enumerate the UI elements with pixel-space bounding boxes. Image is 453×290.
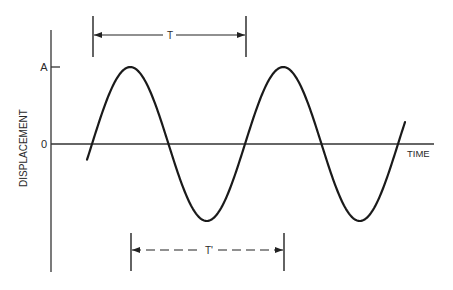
zero-tick-label: 0 <box>41 138 47 150</box>
period-marker-t-prime: T' <box>131 233 284 271</box>
y-axis-label: DISPLACEMENT <box>18 109 29 187</box>
period-t-prime-label: T' <box>205 245 213 256</box>
period-t-label: T <box>167 30 173 41</box>
period-marker-t: T <box>93 16 246 57</box>
amplitude-tick-label: A <box>40 61 48 73</box>
displacement-time-diagram: A 0 TIME DISPLACEMENT T T' <box>0 0 453 290</box>
x-axis-label: TIME <box>407 148 430 159</box>
